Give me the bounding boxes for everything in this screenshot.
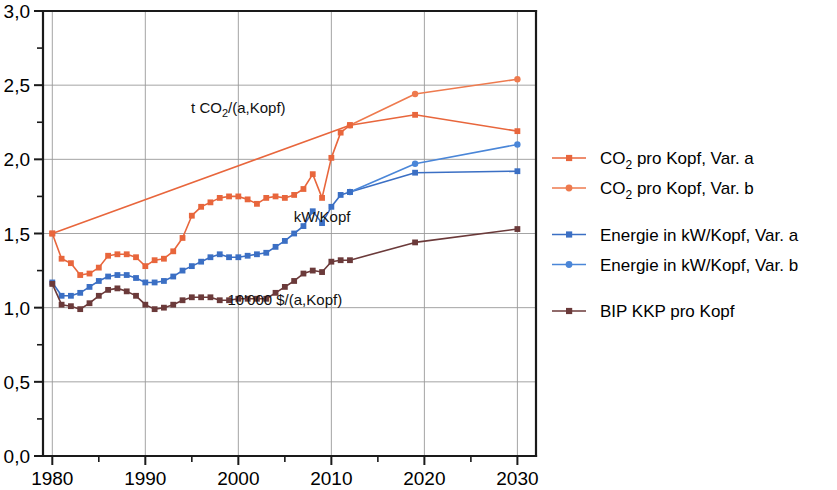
- series-marker: [338, 192, 344, 198]
- series-marker: [161, 278, 167, 284]
- x-tick-label: 1990: [124, 468, 166, 489]
- legend-marker: [566, 261, 573, 268]
- series-marker: [124, 251, 130, 257]
- gdp-annotation: 10'000 $/(a,Kopf): [228, 291, 343, 308]
- series-marker: [208, 254, 214, 260]
- series-marker: [170, 302, 176, 308]
- y-axis: 0,00,51,01,52,02,53,0: [4, 1, 536, 467]
- x-tick-label: 2030: [496, 468, 538, 489]
- series-marker: [282, 195, 288, 201]
- series-marker: [319, 195, 325, 201]
- series-marker: [68, 260, 74, 266]
- series-marker: [87, 300, 93, 306]
- series-marker: [245, 253, 251, 259]
- series-marker: [198, 204, 204, 210]
- series-marker: [217, 297, 223, 303]
- series-marker: [59, 256, 65, 262]
- series-marker: [515, 128, 521, 134]
- series-marker: [142, 302, 148, 308]
- series-marker: [96, 293, 102, 299]
- series-marker: [254, 201, 260, 207]
- series-marker: [282, 284, 288, 290]
- series-marker: [142, 280, 148, 286]
- series-marker: [254, 251, 260, 257]
- series-marker: [412, 161, 418, 167]
- series-marker: [189, 213, 195, 219]
- series-marker: [68, 303, 74, 309]
- series-marker: [198, 259, 204, 265]
- legend-marker: [566, 231, 572, 237]
- series-marker: [96, 278, 102, 284]
- series-marker: [59, 302, 65, 308]
- grid-lines: [43, 11, 536, 456]
- line-chart: 0,00,51,01,52,02,53,0 198019902000201020…: [0, 0, 837, 490]
- series-marker: [105, 274, 111, 280]
- series-marker: [412, 170, 418, 176]
- legend-label: BIP KKP pro Kopf: [600, 302, 735, 321]
- series-marker: [515, 168, 521, 174]
- y-tick-label: 0,5: [4, 372, 30, 393]
- y-tick-label: 1,5: [4, 224, 30, 245]
- energy-annotation: kW/Kopf: [294, 208, 352, 225]
- co2-annotation: t CO2/(a,Kopf): [191, 99, 286, 119]
- x-tick-label: 2010: [310, 468, 352, 489]
- y-tick-label: 0,0: [4, 446, 30, 467]
- series-marker: [189, 263, 195, 269]
- series-marker: [328, 155, 334, 161]
- y-tick-label: 1,0: [4, 298, 30, 319]
- plot-annotations: t CO2/(a,Kopf)kW/Kopf10'000 $/(a,Kopf): [191, 99, 351, 307]
- series-marker: [291, 231, 297, 237]
- legend-label: CO2 pro Kopf, Var. b: [600, 179, 754, 202]
- series-marker: [347, 257, 353, 263]
- series-marker: [180, 297, 186, 303]
- series-marker: [338, 257, 344, 263]
- series-marker: [319, 269, 325, 275]
- series-marker: [59, 293, 65, 299]
- series-marker: [87, 271, 93, 277]
- x-axis: 198019902000201020202030: [31, 456, 538, 489]
- series-marker: [170, 274, 176, 280]
- series-marker: [124, 272, 130, 278]
- series-marker: [412, 112, 418, 118]
- series-marker: [273, 194, 279, 200]
- legend-label: CO2 pro Kopf, Var. a: [600, 149, 754, 172]
- chart-legend: CO2 pro Kopf, Var. aCO2 pro Kopf, Var. b…: [552, 149, 799, 321]
- series-marker: [338, 130, 344, 136]
- series-marker: [68, 293, 74, 299]
- series-marker: [152, 257, 158, 263]
- series-marker: [161, 256, 167, 262]
- x-tick-label: 2020: [403, 468, 445, 489]
- series-marker: [115, 251, 121, 257]
- series-marker: [96, 265, 102, 271]
- series-marker: [514, 76, 520, 82]
- series-marker: [105, 253, 111, 259]
- series-marker: [152, 306, 158, 312]
- series-marker: [142, 263, 148, 269]
- series-marker: [208, 199, 214, 205]
- legend-label: Energie in kW/Kopf, Var. a: [600, 226, 799, 245]
- series-marker: [412, 240, 418, 246]
- series-marker: [180, 235, 186, 241]
- y-tick-label: 2,0: [4, 149, 30, 170]
- series-marker: [226, 194, 232, 200]
- y-tick-label: 2,5: [4, 75, 30, 96]
- series-marker: [133, 254, 139, 260]
- series-marker: [133, 275, 139, 281]
- series-marker: [282, 238, 288, 244]
- series-marker: [77, 306, 83, 312]
- series-marker: [87, 284, 93, 290]
- series-marker: [347, 189, 353, 195]
- legend-marker: [566, 155, 572, 161]
- series-marker: [133, 293, 139, 299]
- y-tick-label: 3,0: [4, 1, 30, 22]
- series-marker: [49, 231, 55, 237]
- chart-container: 0,00,51,01,52,02,53,0 198019902000201020…: [0, 0, 837, 490]
- legend-marker: [566, 185, 573, 192]
- legend-marker: [566, 308, 572, 314]
- series-marker: [514, 141, 520, 147]
- series-marker: [226, 254, 232, 260]
- series-marker: [347, 122, 353, 128]
- series-marker: [301, 186, 307, 192]
- series-marker: [105, 287, 111, 293]
- series-marker: [217, 195, 223, 201]
